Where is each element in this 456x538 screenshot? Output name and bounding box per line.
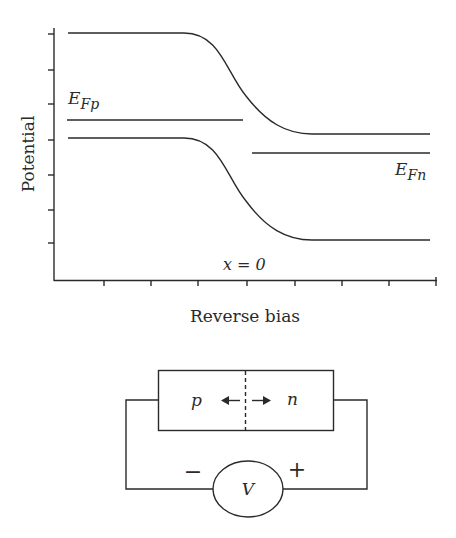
- pn-junction-figure: EFp EFn x = 0 Potential Reverse bias p n…: [0, 0, 456, 538]
- right-arrow-icon: [252, 396, 271, 405]
- y-axis-label: Potential: [18, 116, 38, 193]
- x-axis-label: Reverse bias: [190, 306, 300, 326]
- minus-terminal-label: −: [184, 459, 202, 484]
- y-axis-ticks: [48, 34, 54, 243]
- fermi-level-p-label: EFp: [67, 88, 99, 112]
- band-diagram: EFp EFn x = 0 Potential Reverse bias: [18, 28, 437, 326]
- voltage-label: V: [242, 479, 256, 499]
- left-arrow-icon: [221, 396, 240, 405]
- plus-terminal-label: +: [288, 457, 306, 482]
- conduction-band-curve: [68, 33, 430, 134]
- position-label: x = 0: [223, 255, 266, 274]
- fermi-level-n-label: EFn: [394, 159, 426, 183]
- x-axis-ticks: [104, 277, 436, 286]
- n-region-label: n: [287, 389, 298, 409]
- circuit-diagram: p n V − +: [126, 371, 367, 518]
- p-region-label: p: [191, 390, 202, 410]
